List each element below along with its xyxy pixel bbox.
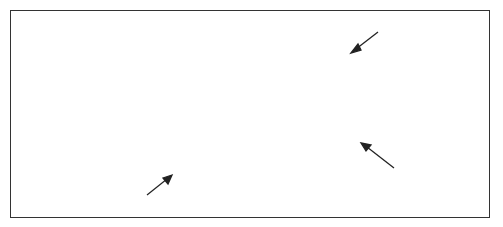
nucleus-arrowhead-icon [361,143,371,151]
nucleus-arrow-shaft [367,147,394,168]
microvilli-arrowhead-icon [351,44,361,53]
basal-end-arrow-shaft [147,179,167,195]
epithelium-illustration [0,0,503,227]
basal-end-arrowhead-icon [163,175,172,184]
